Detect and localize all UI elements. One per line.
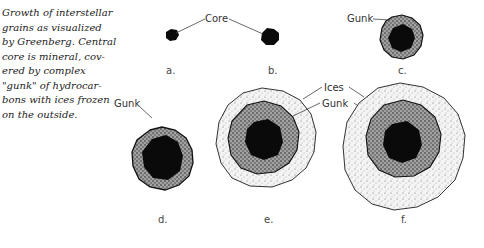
core-b xyxy=(261,28,279,45)
grain-e xyxy=(216,88,316,187)
stage-label-c: c. xyxy=(398,65,407,76)
core-leader-b xyxy=(229,19,263,34)
ices-leader-e-left xyxy=(303,87,322,99)
grain-b xyxy=(261,28,279,45)
core-leader-a xyxy=(176,19,205,33)
grain-c xyxy=(380,15,423,59)
grain-d xyxy=(132,127,193,190)
ices-leader-f xyxy=(349,87,364,97)
stage-label-d: d. xyxy=(158,214,168,225)
gunk-leader-d xyxy=(140,107,152,118)
stage-label-a: a. xyxy=(166,65,175,76)
grain-a xyxy=(166,29,179,41)
ices-label: Ices xyxy=(324,82,344,93)
gunk-label-d: Gunk xyxy=(114,98,140,109)
gunk-leader-c xyxy=(373,19,390,20)
grain-growth-diagram: Core Gunk Gunk Ices Gunk a. b. c. d. e. … xyxy=(0,0,484,248)
stage-label-b: b. xyxy=(268,65,278,76)
core-label: Core xyxy=(205,13,228,24)
stage-label-f: f. xyxy=(401,214,407,225)
grain-f xyxy=(343,83,465,210)
stage-label-e: e. xyxy=(264,214,273,225)
gunk-label-e: Gunk xyxy=(322,98,348,109)
core-a xyxy=(166,29,179,41)
gunk-label-c: Gunk xyxy=(347,13,373,24)
